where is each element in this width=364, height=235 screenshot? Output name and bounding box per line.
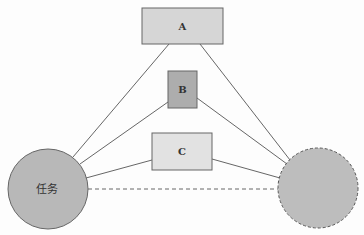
diagram-canvas: A B C 任务	[0, 0, 364, 235]
node-goal-circle	[278, 148, 358, 228]
node-a-label: A	[178, 21, 187, 32]
node-b-label: B	[178, 84, 186, 95]
edge-a-goal	[200, 44, 290, 160]
edge-c-goal	[212, 159, 280, 178]
diagram-svg: A B C 任务	[0, 0, 364, 235]
edge-task-c	[86, 160, 152, 178]
node-task-label: 任务	[36, 183, 58, 196]
node-c-label: C	[178, 146, 186, 157]
